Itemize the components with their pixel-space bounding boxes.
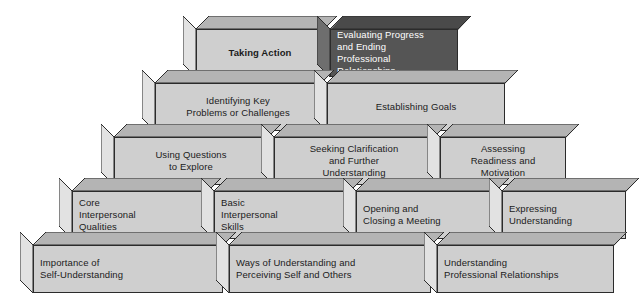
block-front-face: Importance of Self-Understanding (33, 245, 223, 293)
block-label: Evaluating Progress and Ending Professio… (331, 29, 457, 77)
block-label: Identifying Key Problems or Challenges (180, 95, 296, 119)
block-label: Basic Interpersonal Skills (215, 197, 349, 233)
block-top-face (327, 70, 518, 84)
block-side-face (101, 124, 115, 185)
block-top-face (72, 178, 221, 192)
block-understanding-professional-relationships: Understanding Professional Relationships (437, 245, 614, 293)
block-front-face: Expressing Understanding (502, 191, 626, 239)
block-side-face (489, 178, 503, 239)
block-label: Assessing Readiness and Motivation (465, 143, 542, 179)
block-top-face (330, 16, 471, 30)
block-label: Taking Action (222, 47, 297, 59)
block-label: Using Questions to Explore (149, 149, 232, 173)
block-side-face (59, 178, 73, 239)
block-label: Importance of Self-Understanding (34, 257, 222, 281)
block-label: Understanding Professional Relationships (438, 257, 613, 281)
block-top-face (196, 16, 337, 30)
block-side-face (201, 178, 215, 239)
block-label: Expressing Understanding (503, 203, 625, 227)
block-front-face: Assessing Readiness and Motivation (440, 137, 566, 185)
block-top-face (229, 232, 444, 246)
block-evaluating-progress: Evaluating Progress and Ending Professio… (330, 29, 458, 77)
block-side-face (424, 232, 438, 293)
block-assessing-readiness: Assessing Readiness and Motivation (440, 137, 566, 185)
block-core-interpersonal-qualities: Core Interpersonal Qualities (72, 191, 208, 239)
block-importance-self-understanding: Importance of Self-Understanding (33, 245, 223, 293)
block-top-face (440, 124, 579, 138)
block-identifying-key-problems: Identifying Key Problems or Challenges (155, 83, 321, 131)
block-top-face (33, 232, 236, 246)
block-side-face (317, 16, 331, 77)
block-front-face: Basic Interpersonal Skills (214, 191, 350, 239)
block-side-face (20, 232, 34, 293)
block-side-face (261, 124, 275, 185)
block-label: Opening and Closing a Meeting (357, 203, 495, 227)
block-top-face (437, 232, 627, 246)
block-top-face (114, 124, 281, 138)
block-establishing-goals: Establishing Goals (327, 83, 505, 131)
block-side-face (183, 16, 197, 77)
block-front-face: Core Interpersonal Qualities (72, 191, 208, 239)
block-front-face: Ways of Understanding and Perceiving Sel… (229, 245, 431, 293)
block-using-questions: Using Questions to Explore (114, 137, 268, 185)
block-top-face (214, 178, 363, 192)
block-front-face: Understanding Professional Relationships (437, 245, 614, 293)
block-side-face (314, 70, 328, 131)
block-side-face (142, 70, 156, 131)
block-label: Core Interpersonal Qualities (73, 197, 207, 233)
block-top-face (356, 178, 509, 192)
block-top-face (502, 178, 639, 192)
block-front-face: Using Questions to Explore (114, 137, 268, 185)
block-front-face: Identifying Key Problems or Challenges (155, 83, 321, 131)
block-basic-interpersonal-skills: Basic Interpersonal Skills (214, 191, 350, 239)
block-front-face: Taking Action (196, 29, 324, 77)
block-ways-of-understanding: Ways of Understanding and Perceiving Sel… (229, 245, 431, 293)
block-label: Ways of Understanding and Perceiving Sel… (230, 257, 430, 281)
block-side-face (216, 232, 230, 293)
block-taking-action: Taking Action (196, 29, 324, 77)
block-expressing-understanding: Expressing Understanding (502, 191, 626, 239)
block-side-face (343, 178, 357, 239)
block-label: Establishing Goals (370, 101, 462, 113)
block-front-face: Evaluating Progress and Ending Professio… (330, 29, 458, 77)
block-front-face: Establishing Goals (327, 83, 505, 131)
block-top-face (274, 124, 447, 138)
block-label: Seeking Clarification and Further Unders… (304, 143, 405, 179)
block-top-face (155, 70, 334, 84)
block-side-face (427, 124, 441, 185)
